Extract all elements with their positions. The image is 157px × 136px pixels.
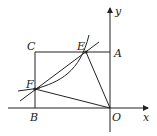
- label-c: C: [27, 40, 36, 53]
- segment-eo: [86, 52, 110, 108]
- label-x: x: [143, 111, 150, 124]
- label-o: O: [112, 111, 121, 124]
- label-b: B: [29, 111, 38, 124]
- geometry-diagram: C E A F B O x y: [0, 0, 157, 136]
- label-f: F: [25, 78, 34, 91]
- rectangle-oacb: [35, 52, 110, 108]
- segment-fo: [35, 89, 110, 108]
- point-f: [33, 87, 36, 90]
- label-e: E: [76, 40, 85, 53]
- label-y: y: [114, 5, 122, 18]
- label-a: A: [113, 47, 122, 60]
